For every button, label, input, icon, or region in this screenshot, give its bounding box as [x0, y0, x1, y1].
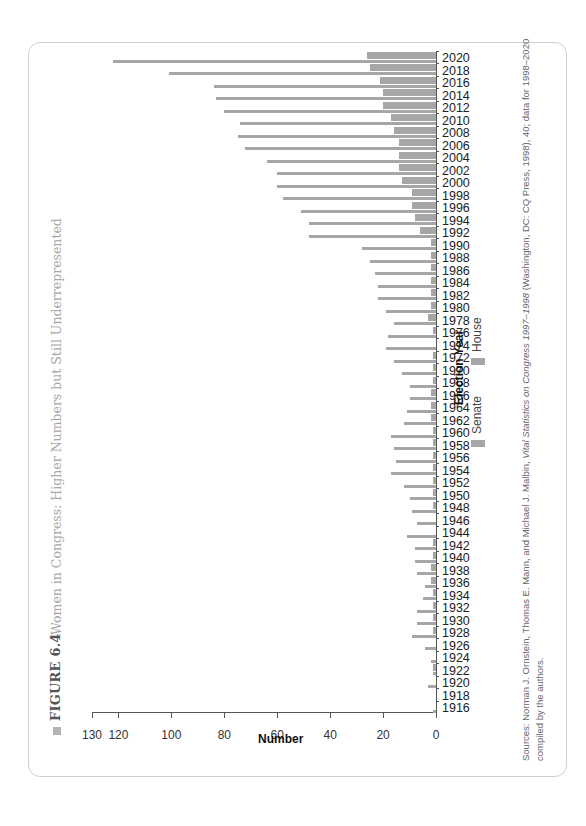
bar-house-1922 — [433, 673, 436, 676]
year-label-1952: 1952 — [442, 476, 470, 490]
category-axis-tick — [436, 651, 439, 652]
bar-house-1976 — [388, 335, 436, 338]
category-axis-tick — [436, 676, 439, 677]
year-label-1928: 1928 — [442, 626, 470, 640]
bar-senate-2000 — [402, 177, 436, 184]
year-label-2020: 2020 — [442, 51, 470, 65]
bar-house-1948 — [412, 510, 436, 513]
bar-house-2016 — [214, 85, 436, 88]
bar-house-1944 — [407, 535, 436, 538]
year-label-1996: 1996 — [442, 201, 470, 215]
value-axis-tick-label: 40 — [323, 728, 336, 742]
category-axis-tick — [436, 64, 439, 65]
bar-house-1942 — [415, 548, 436, 551]
category-axis-tick — [436, 514, 439, 515]
chart-plot: 0204060801001201301916191819201922192419… — [28, 42, 567, 777]
category-axis-tick — [436, 239, 439, 240]
bar-house-1924 — [431, 660, 436, 663]
bar-senate-1980 — [431, 302, 436, 309]
legend-senate-swatch — [471, 440, 485, 447]
bar-house-1994 — [309, 223, 436, 226]
year-label-1982: 1982 — [442, 289, 470, 303]
bar-senate-1972 — [433, 352, 436, 359]
category-axis-tick — [436, 339, 439, 340]
category-axis-tick — [436, 551, 439, 552]
year-label-1978: 1978 — [442, 314, 470, 328]
bar-house-1968 — [410, 385, 436, 388]
bar-senate-1984 — [431, 277, 436, 284]
category-axis-tick — [436, 389, 439, 390]
bar-senate-1996 — [412, 202, 436, 209]
category-axis-tick — [436, 464, 439, 465]
category-axis-tick — [436, 489, 439, 490]
category-axis-tick — [436, 126, 439, 127]
category-axis-tick — [436, 151, 439, 152]
bar-senate-1928 — [433, 627, 436, 634]
bar-house-1966 — [410, 398, 436, 401]
category-axis-tick — [436, 576, 439, 577]
bar-senate-1968 — [433, 377, 436, 384]
bar-senate-1992 — [420, 227, 436, 234]
bar-senate-1998 — [412, 190, 436, 197]
bar-house-2012 — [224, 110, 436, 113]
value-axis-tick — [436, 713, 437, 718]
year-label-1958: 1958 — [442, 439, 470, 453]
bar-house-2002 — [277, 173, 436, 176]
bar-senate-2016 — [380, 77, 436, 84]
bar-house-1954 — [391, 473, 436, 476]
category-axis-tick — [436, 189, 439, 190]
legend-senate-label: Senate — [470, 396, 484, 434]
year-label-1986: 1986 — [442, 264, 470, 278]
year-label-1954: 1954 — [442, 464, 470, 478]
year-label-1940: 1940 — [442, 551, 470, 565]
bar-senate-2012 — [383, 102, 436, 109]
source-note-line-1: Sources: Norman J. Ornstein, Thomas E. M… — [520, 39, 531, 761]
category-axis-tick — [436, 601, 439, 602]
year-label-1922: 1922 — [442, 664, 470, 678]
year-label-2010: 2010 — [442, 114, 470, 128]
category-axis-tick — [436, 176, 439, 177]
bar-house-2018 — [169, 73, 436, 76]
category-axis-tick — [436, 664, 439, 665]
year-label-1980: 1980 — [442, 301, 470, 315]
bar-house-1930 — [417, 623, 436, 626]
bar-senate-1958 — [433, 440, 436, 447]
year-label-1998: 1998 — [442, 189, 470, 203]
category-axis-tick — [436, 76, 439, 77]
bar-house-1990 — [362, 248, 436, 251]
bar-senate-1950 — [433, 490, 436, 497]
bar-house-1988 — [370, 260, 436, 263]
bar-house-1962 — [404, 423, 436, 426]
category-axis-tick — [436, 164, 439, 165]
year-label-1960: 1960 — [442, 426, 470, 440]
bar-senate-1930 — [433, 615, 436, 622]
value-axis-tick-label: 130 — [82, 728, 102, 742]
year-label-1992: 1992 — [442, 226, 470, 240]
year-label-1934: 1934 — [442, 589, 470, 603]
value-axis-tick-label: 0 — [433, 728, 440, 742]
bar-house-1938 — [417, 573, 436, 576]
bar-house-2000 — [277, 185, 436, 188]
bar-senate-1960 — [433, 427, 436, 434]
category-axis-tick — [436, 314, 439, 315]
category-axis-tick — [436, 214, 439, 215]
year-label-2018: 2018 — [442, 64, 470, 78]
bar-house-1986 — [375, 273, 436, 276]
year-label-1920: 1920 — [442, 676, 470, 690]
year-label-1916: 1916 — [442, 701, 470, 715]
bar-senate-2010 — [391, 115, 436, 122]
bar-house-1996 — [301, 210, 436, 213]
bar-senate-2018 — [370, 65, 436, 72]
bar-senate-2014 — [383, 90, 436, 97]
category-axis-tick — [436, 264, 439, 265]
bar-senate-1948 — [433, 502, 436, 509]
bar-senate-2006 — [399, 140, 436, 147]
source-title: Vital Statistics on Congress 1997–1998 — [520, 293, 531, 459]
bar-senate-2020 — [367, 52, 436, 59]
year-label-2016: 2016 — [442, 76, 470, 90]
year-label-2014: 2014 — [442, 89, 470, 103]
category-axis-tick — [436, 526, 439, 527]
bar-senate-1938 — [431, 565, 436, 572]
rotated-figure: FIGURE 6.4 Women in Congress: Higher Num… — [28, 42, 567, 777]
category-axis-tick — [436, 139, 439, 140]
